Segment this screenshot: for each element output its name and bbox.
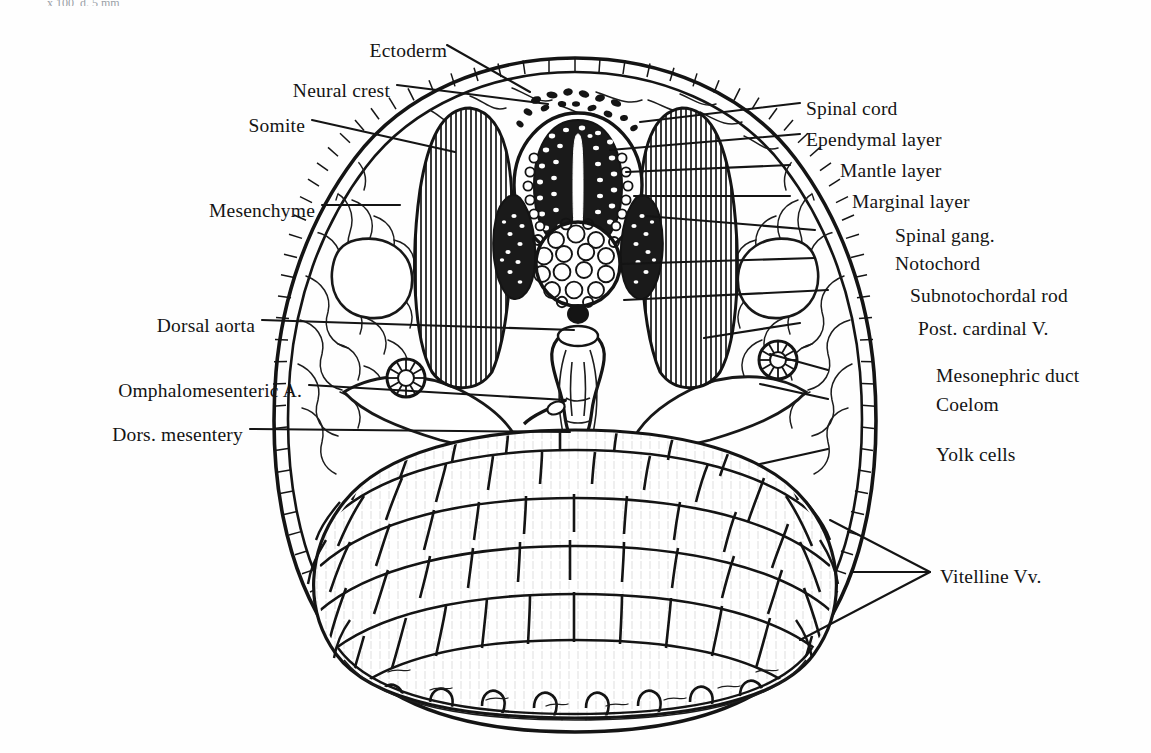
label-dorsal-aorta: Dorsal aorta bbox=[157, 315, 255, 337]
label-yolk-cells: Yolk cells bbox=[936, 444, 1016, 466]
label-coelom: Coelom bbox=[936, 394, 999, 416]
label-mesonephric-duct: Mesonephric duct bbox=[936, 365, 1079, 387]
label-ectoderm: Ectoderm bbox=[370, 40, 447, 62]
label-mesenchyme: Mesenchyme bbox=[209, 200, 315, 222]
label-ependymal-layer: Ependymal layer bbox=[806, 129, 942, 151]
subnotochordal-rod bbox=[568, 305, 588, 323]
label-mantle-layer: Mantle layer bbox=[840, 160, 941, 182]
embryo-cross-section-figure: x 100, d. 5 mm bbox=[0, 0, 1151, 753]
label-marginal-layer: Marginal layer bbox=[852, 191, 970, 213]
yolk-cell-mass bbox=[314, 430, 837, 720]
label-spinal-cord: Spinal cord bbox=[806, 98, 898, 120]
label-somite: Somite bbox=[249, 115, 305, 137]
label-spinal-gang: Spinal gang. bbox=[895, 225, 995, 247]
label-vitelline-vv: Vitelline Vv. bbox=[940, 566, 1042, 588]
label-neural-crest: Neural crest bbox=[293, 80, 390, 102]
label-dors-mesentery: Dors. mesentery bbox=[112, 424, 243, 446]
label-omphalomesenteric-a: Omphalomesenteric A. bbox=[118, 380, 302, 402]
label-subnotochordal-rod: Subnotochordal rod bbox=[910, 285, 1068, 307]
leader-yolk-cells bbox=[760, 449, 828, 464]
label-notochord: Notochord bbox=[895, 253, 980, 275]
label-post-cardinal-v: Post. cardinal V. bbox=[918, 318, 1049, 340]
leader-dors-mesentery bbox=[250, 429, 570, 432]
